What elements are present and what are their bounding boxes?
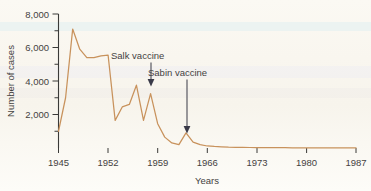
- chart-canvas: 8,000 6,000 4,000 2,000 1945 1952 1959 1…: [0, 0, 371, 191]
- x-tick-label-1987: 1987: [345, 157, 366, 168]
- x-tick-label-1966: 1966: [197, 157, 218, 168]
- annotation-label-sabin: Sabin vaccine: [148, 67, 207, 78]
- arrowhead-sabin-icon: [184, 126, 191, 134]
- y-tick-label-6000: 6,000: [25, 42, 49, 53]
- y-axis-title: Number of cases: [5, 45, 16, 117]
- x-tick-label-1945: 1945: [48, 157, 69, 168]
- y-tick-label-2000: 2,000: [25, 109, 49, 120]
- annotation-label-salk: Salk vaccine: [111, 50, 164, 61]
- x-axis-title: Years: [195, 175, 219, 186]
- x-tick-label-1952: 1952: [97, 157, 118, 168]
- y-tick-label-4000: 4,000: [25, 76, 49, 87]
- arrowhead-salk-icon: [148, 79, 155, 87]
- x-tick-label-1959: 1959: [147, 157, 168, 168]
- polio-cases-series-line: [59, 29, 357, 148]
- annotation-sabin-vaccine: Sabin vaccine: [148, 67, 207, 134]
- polio-cases-line-chart: 8,000 6,000 4,000 2,000 1945 1952 1959 1…: [0, 0, 371, 191]
- x-tick-label-1973: 1973: [246, 157, 267, 168]
- x-tick-label-1980: 1980: [296, 157, 317, 168]
- x-axis: [58, 148, 356, 153]
- y-axis: [53, 14, 59, 148]
- y-tick-label-8000: 8,000: [25, 9, 49, 20]
